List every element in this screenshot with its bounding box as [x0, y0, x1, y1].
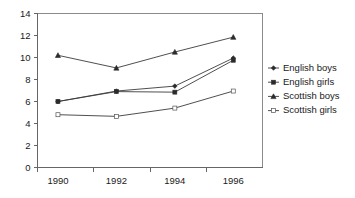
x-tick-label: 1996 [223, 175, 244, 186]
legend-label: Scottish girls [283, 104, 337, 115]
y-tick-label: 8 [25, 74, 30, 85]
legend-label: English girls [283, 76, 334, 87]
y-tick-label: 10 [20, 52, 31, 63]
legend-marker [272, 80, 276, 84]
x-tick-label: 1992 [106, 175, 127, 186]
legend-item-english-boys[interactable]: English boys [268, 62, 337, 73]
data-point [231, 58, 235, 62]
legend-marker [271, 66, 276, 71]
legend-label: English boys [283, 62, 337, 73]
y-tick-label: 12 [20, 30, 31, 41]
legend-item-scottish-boys[interactable]: Scottish boys [268, 90, 340, 101]
series-path [58, 91, 233, 116]
legend-item-scottish-girls[interactable]: Scottish girls [268, 104, 337, 115]
x-tick-label: 1994 [164, 175, 185, 186]
series-path [58, 60, 233, 101]
series-english-boys [56, 56, 236, 104]
legend-marker [272, 109, 276, 113]
series-path [58, 58, 233, 101]
data-point [173, 84, 178, 89]
x-tick-group: 1990199219941996 [38, 168, 244, 186]
legend-label: Scottish boys [283, 90, 340, 101]
y-tick-label: 4 [25, 118, 30, 129]
y-tick-label: 0 [25, 162, 30, 173]
data-point [231, 35, 236, 40]
data-point [231, 89, 235, 93]
series-scottish-girls [56, 89, 235, 118]
data-point [114, 90, 118, 94]
data-point [173, 90, 177, 94]
data-point [55, 53, 60, 58]
chart-legend: English boysEnglish girlsScottish boysSc… [268, 62, 340, 116]
y-tick-label: 14 [20, 8, 31, 19]
line-chart: 02468101214 1990199219941996 English boy… [0, 0, 355, 198]
series-scottish-boys [55, 35, 236, 71]
y-tick-group: 02468101214 [20, 8, 38, 173]
chart-canvas: 02468101214 1990199219941996 English boy… [0, 0, 355, 198]
x-tick-label: 1990 [47, 175, 68, 186]
series-group [55, 35, 236, 119]
y-tick-label: 6 [25, 96, 30, 107]
y-tick-label: 2 [25, 140, 30, 151]
data-point [56, 100, 60, 104]
data-point [114, 114, 118, 118]
plot-frame [38, 14, 263, 168]
series-path [58, 37, 233, 68]
legend-item-english-girls[interactable]: English girls [268, 76, 334, 87]
data-point [173, 106, 177, 110]
data-point [56, 113, 60, 117]
